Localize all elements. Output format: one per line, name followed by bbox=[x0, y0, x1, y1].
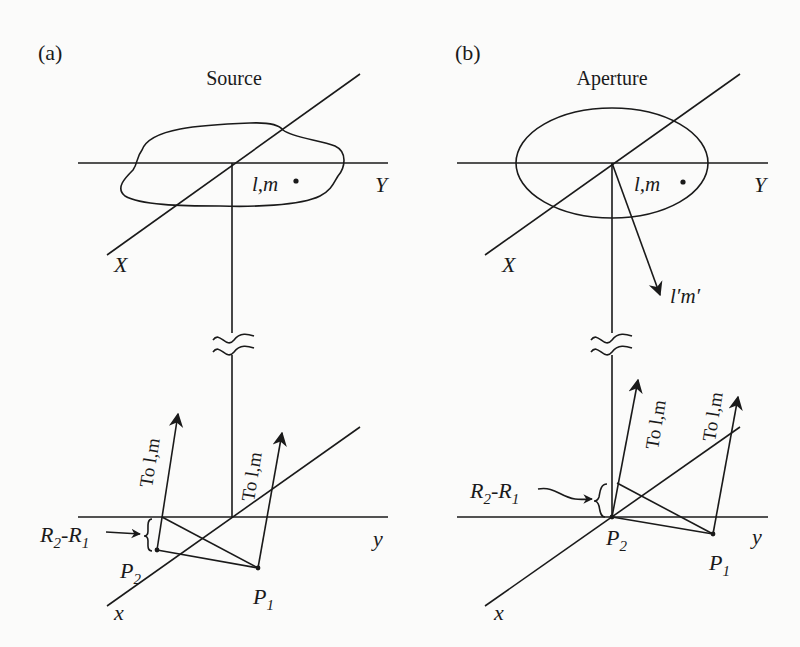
baseline-label: R2-R1 bbox=[469, 478, 519, 507]
arrow-label: To l,m bbox=[698, 390, 726, 442]
lm-point-dot bbox=[680, 179, 685, 184]
X-axis-label: X bbox=[113, 252, 129, 277]
arrow-label: To l,m bbox=[641, 398, 669, 450]
panel-a: (a) Source Y X l,m y x To l,m To l,m bbox=[38, 40, 390, 625]
P2-label: P2 bbox=[119, 558, 141, 587]
direction-arrow-P2 bbox=[157, 414, 178, 550]
X-axis-label: X bbox=[501, 252, 517, 277]
P1-label: P1 bbox=[252, 584, 274, 613]
y-axis-label: y bbox=[371, 526, 383, 551]
break-icon bbox=[591, 346, 632, 355]
lm-point-label: l,m bbox=[634, 172, 660, 196]
arrow-label: To l,m bbox=[237, 450, 265, 502]
brace-icon bbox=[144, 519, 152, 551]
Y-axis-label: Y bbox=[375, 172, 390, 197]
figure: (a) Source Y X l,m y x To l,m To l,m bbox=[0, 0, 800, 647]
panel-title: Aperture bbox=[576, 67, 647, 90]
panel-title: Source bbox=[206, 67, 262, 89]
x-axis-label: x bbox=[113, 600, 124, 625]
panel-label: (a) bbox=[38, 40, 62, 65]
lm-prime-label: l′m′ bbox=[670, 284, 701, 308]
y-axis-label: y bbox=[750, 524, 762, 549]
pointer-arrow bbox=[106, 532, 140, 534]
arrow-label: To l,m bbox=[135, 436, 163, 488]
direction-arrow-P2 bbox=[612, 380, 638, 517]
baseline-label: R2-R1 bbox=[39, 522, 89, 551]
break-icon bbox=[213, 334, 254, 343]
break-icon bbox=[591, 334, 632, 343]
brace-icon bbox=[594, 484, 607, 517]
pointer-arrow bbox=[538, 488, 592, 499]
panel-b: (b) Aperture Y X l,m l′m′ y x To l,m To … bbox=[455, 40, 769, 625]
P1-label: P1 bbox=[708, 550, 730, 579]
break-icon bbox=[213, 346, 254, 355]
lm-point-label: l,m bbox=[252, 172, 278, 196]
X-axis bbox=[107, 74, 360, 255]
P2-label: P2 bbox=[605, 525, 627, 554]
lm-point-dot bbox=[293, 178, 298, 183]
Y-axis-label: Y bbox=[754, 172, 769, 197]
x-axis-label: x bbox=[493, 600, 504, 625]
path-line bbox=[162, 517, 258, 568]
panel-label: (b) bbox=[455, 40, 481, 65]
